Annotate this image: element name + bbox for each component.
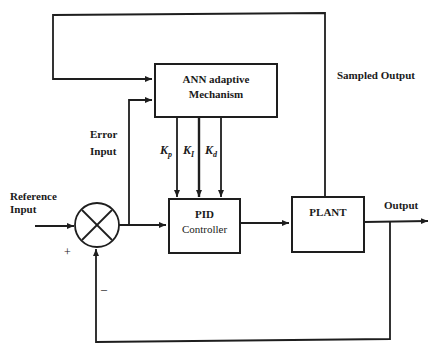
wiring: [0, 0, 433, 348]
pid-controller-block: PID Controller: [168, 198, 241, 254]
plus-sign: +: [64, 245, 71, 260]
gain-kd: Kd: [205, 143, 217, 159]
pid-label-line1: PID: [170, 207, 239, 222]
minus-sign: –: [101, 282, 107, 297]
output-arrow: [364, 221, 428, 222]
gain-ki: KI: [183, 143, 194, 159]
reference-input-label: Reference Input: [10, 190, 57, 216]
ann-label-line2: Mechanism: [156, 87, 276, 102]
pid-label-line2: Controller: [170, 222, 239, 237]
output-label: Output: [384, 199, 418, 212]
error-input-arrow: [129, 100, 152, 225]
gain-kp: Kp: [160, 143, 172, 159]
ann-adaptive-mechanism-block: ANN adaptive Mechanism: [154, 63, 278, 118]
plant-label: PLANT: [293, 205, 363, 220]
ann-label-line1: ANN adaptive: [156, 72, 276, 87]
plant-block: PLANT: [291, 196, 365, 253]
error-input-label: Error Input: [90, 128, 117, 158]
sampled-output-label: Sampled Output: [337, 69, 415, 82]
